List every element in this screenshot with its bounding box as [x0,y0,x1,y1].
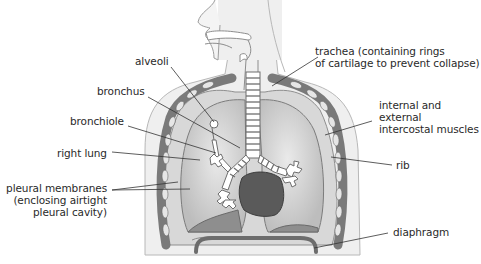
label-pleural-line2: (enclosing airtight [0,194,107,206]
label-trachea: trachea (containing rings of cartilage t… [315,45,480,69]
heart [239,172,284,216]
label-bronchus: bronchus [97,85,145,97]
label-diaphragm: diaphragm [393,226,449,238]
label-intercostal-line1: internal and [379,99,479,111]
label-intercostal-muscles: internal and external intercostal muscle… [379,99,479,135]
label-pleural-line3: pleural cavity) [0,206,107,218]
label-intercostal-line2: external [379,111,479,123]
label-pleural-membranes: pleural membranes (enclosing airtight pl… [0,182,107,218]
label-right-lung: right lung [57,147,107,159]
respiratory-diagram: alveoli bronchus bronchiole right lung p… [0,0,481,264]
label-intercostal-line3: intercostal muscles [379,123,479,135]
label-rib: rib [396,159,410,171]
label-trachea-line1: trachea (containing rings [315,45,480,57]
label-alveoli: alveoli [135,55,169,67]
trachea [246,72,260,158]
label-pleural-line1: pleural membranes [0,182,107,194]
label-bronchiole: bronchiole [70,115,124,127]
label-trachea-line2: of cartilage to prevent collapse) [315,57,480,69]
